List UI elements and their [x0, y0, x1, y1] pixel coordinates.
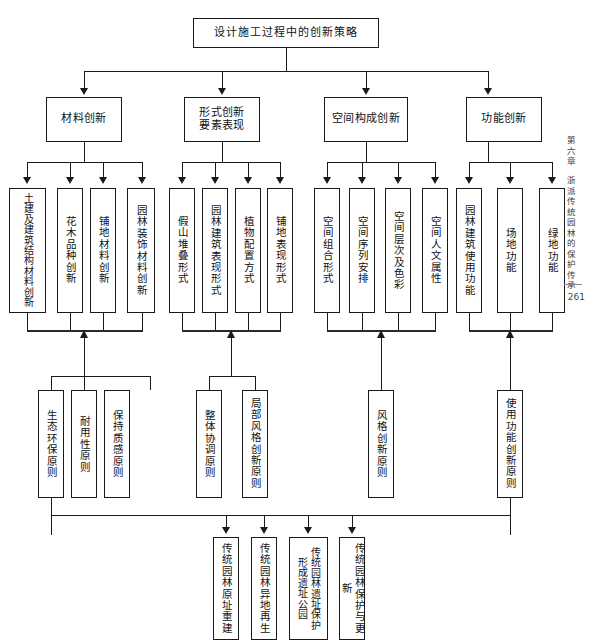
level3-box-function-1: 园林建筑使用功能: [456, 188, 482, 313]
connector-drop-f2: [215, 162, 216, 178]
connector-pm2: [84, 376, 85, 390]
outcome-label-3: 传统园林遗址保护形成遗址公园: [296, 542, 322, 635]
arrow-s4: [431, 177, 439, 184]
diagram-title-text: 设计施工过程中的创新策略: [214, 27, 358, 39]
collector-drop-n1: [469, 313, 470, 331]
level2-label-function: 功能创新: [481, 113, 527, 125]
connector-up-stem-space: [381, 338, 382, 390]
outcome-box-2: 传统园林异地再生: [251, 537, 277, 640]
principle-label-material-2: 耐用性原则: [77, 416, 90, 473]
connector-drop-n2: [510, 162, 511, 178]
level2-label-material: 材料创新: [61, 113, 107, 125]
outcome-label-4: 传统园林保护与更新: [339, 542, 365, 635]
level3-box-form-3: 植物配置方式: [235, 188, 261, 313]
arrow-s3: [394, 177, 402, 184]
connector-top-bus: [84, 71, 488, 72]
arrow-n2: [506, 177, 514, 184]
principle-box-form-1: 整体协调原则: [196, 390, 222, 498]
page-margin-rail: 第六章 浙派传统园林的保护传承 261: [552, 0, 594, 640]
principle-box-material-1: 生态环保原则: [38, 390, 64, 498]
connector-drop-f1: [182, 162, 183, 178]
level3-box-material-1: 土建及建筑结构材料创新: [9, 188, 46, 313]
collector-drop-f4: [280, 313, 281, 331]
connector-bus-principles-material: [51, 376, 150, 377]
level3-label-space-4: 空间人文属性: [428, 216, 441, 284]
connector-stem-form: [222, 142, 223, 162]
connector-drop-s4: [435, 162, 436, 178]
diagram-title-box: 设计施工过程中的创新策略: [193, 18, 379, 48]
level2-box-function: 功能创新: [466, 97, 542, 142]
level3-label-space-1: 空间组合形式: [320, 216, 333, 284]
level3-label-material-2: 花木品种创新: [63, 216, 76, 284]
level2-box-material: 材料创新: [46, 97, 122, 142]
level2-box-space: 空间构成创新: [324, 97, 408, 142]
principle-box-space-1: 风格创新原则: [368, 390, 394, 498]
collector-drop-s4: [435, 313, 436, 331]
diagram-canvas: 设计施工过程中的创新策略 材料创新 形式创新要素表现 空间构成创新 功能创新 土…: [0, 0, 594, 640]
level3-box-space-3: 空间层次及色彩: [385, 188, 411, 313]
collector-drop-s2: [362, 313, 363, 331]
level2-label-space: 空间构成创新: [332, 113, 400, 125]
level3-box-space-2: 空间序列安排: [349, 188, 375, 313]
collector-drop-f3: [248, 313, 249, 331]
level3-label-space-3: 空间层次及色彩: [391, 211, 404, 291]
connector-drop-l2-3: [366, 71, 367, 89]
principle-label-material-3: 保持质感原则: [110, 410, 123, 478]
connector-stem-function: [488, 142, 489, 162]
connector-outcome-right-riser: [510, 498, 511, 535]
collector-drop-m3: [103, 313, 104, 331]
connector-pm3: [150, 376, 151, 390]
level3-label-function-1: 园林建筑使用功能: [462, 205, 475, 296]
chapter-label: 第六章: [564, 136, 576, 168]
outcome-box-4: 传统园林保护与更新: [339, 537, 365, 640]
connector-drop-m1: [27, 162, 28, 178]
connector-drop-m2: [70, 162, 71, 178]
principle-box-form-2: 局部风格创新原则: [242, 390, 268, 498]
level3-label-space-2: 空间序列安排: [355, 216, 368, 284]
outcome-label-1: 传统园林原址重建: [219, 543, 232, 634]
level3-box-form-4: 铺地表现形式: [267, 188, 293, 313]
connector-pf2: [255, 376, 256, 390]
arrow-m1: [23, 177, 31, 184]
arrow-outcome-4: [348, 527, 356, 534]
arrow-outcome-3: [304, 527, 312, 534]
arrow-m4: [138, 177, 146, 184]
arrow-outcome-1: [222, 527, 230, 534]
level3-label-material-1: 土建及建筑结构材料创新: [21, 193, 34, 307]
level3-box-form-2: 园林建筑表现形式: [202, 188, 228, 313]
collector-drop-m4: [142, 313, 143, 331]
connector-drop-n1: [469, 162, 470, 178]
collector-drop-n2: [510, 313, 511, 331]
connector-drop-l2-4: [488, 71, 489, 89]
collector-drop-f2: [215, 313, 216, 331]
connector-bus-form: [182, 162, 280, 163]
level3-label-form-2: 园林建筑表现形式: [208, 205, 221, 296]
arrow-up-form: [227, 330, 235, 338]
arrow-n1: [465, 177, 473, 184]
arrow-up-function: [506, 330, 514, 338]
level3-label-form-3: 植物配置方式: [241, 216, 254, 284]
level3-label-material-3: 铺地材料创新: [96, 216, 109, 284]
connector-pf1: [209, 376, 210, 390]
arrow-l2-3: [362, 88, 370, 95]
connector-bus-principles-form: [209, 376, 255, 377]
level3-box-space-1: 空间组合形式: [314, 188, 340, 313]
arrow-l2-1: [80, 88, 88, 95]
principle-label-material-1: 生态环保原则: [44, 410, 57, 478]
level2-box-form: 形式创新要素表现: [184, 97, 260, 142]
arrow-up-material: [80, 330, 88, 338]
connector-drop-f4: [280, 162, 281, 178]
section-label: 浙派传统园林的保护传承: [564, 176, 576, 292]
margin-divider: [564, 284, 582, 285]
collector-drop-m1: [27, 313, 28, 331]
arrow-s1: [323, 177, 331, 184]
collector-drop-m2: [70, 313, 71, 331]
principle-label-form-1: 整体协调原则: [202, 410, 215, 478]
principle-label-function-1: 使用功能创新原则: [503, 398, 516, 489]
principle-box-material-2: 耐用性原则: [71, 390, 97, 498]
connector-drop-l2-2: [222, 71, 223, 89]
level3-box-form-1: 假山堆叠形式: [169, 188, 195, 313]
connector-drop-f3: [248, 162, 249, 178]
connector-outcome-bus: [51, 515, 511, 516]
arrow-up-space: [377, 330, 385, 338]
